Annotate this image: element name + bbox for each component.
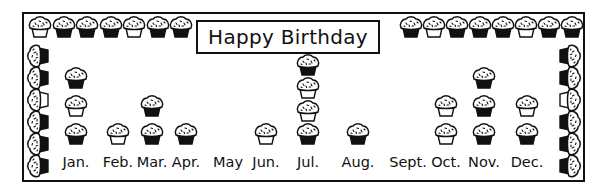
cupcake-icon <box>471 66 497 90</box>
month-label: Nov. <box>468 154 500 170</box>
cupcake-icon <box>471 94 497 118</box>
cupcake-icon <box>295 76 321 100</box>
cupcake-icon <box>295 99 321 123</box>
cupcake-icon <box>471 122 497 146</box>
title-box: Happy Birthday <box>196 20 380 54</box>
cupcake-icon <box>168 15 194 39</box>
month-label: Feb. <box>103 154 133 170</box>
cupcake-icon <box>433 122 459 146</box>
month-label: Aug. <box>342 154 375 170</box>
cupcake-icon <box>74 15 100 39</box>
cupcake-icon <box>295 53 321 77</box>
cupcake-icon <box>433 94 459 118</box>
month-label: Sept. <box>389 154 427 170</box>
cupcake-icon <box>27 15 53 39</box>
cupcake-icon <box>139 122 165 146</box>
chart-title: Happy Birthday <box>208 25 368 49</box>
cupcake-icon <box>514 122 540 146</box>
month-label: Jan. <box>63 154 90 170</box>
month-label: Dec. <box>511 154 544 170</box>
month-label: Oct. <box>431 154 461 170</box>
cupcake-icon <box>173 122 199 146</box>
cupcake-icon <box>121 15 147 39</box>
cupcake-icon <box>295 122 321 146</box>
cupcake-icon <box>105 122 131 146</box>
month-label: Jun. <box>252 154 279 170</box>
cupcake-icon <box>63 122 89 146</box>
month-label: Jul. <box>297 154 319 170</box>
cupcake-icon <box>559 15 585 39</box>
cupcake-icon <box>139 94 165 118</box>
cupcake-icon <box>345 122 371 146</box>
month-label: Mar. <box>137 154 168 170</box>
month-label: Apr. <box>172 154 200 170</box>
cupcake-icon <box>145 15 171 39</box>
month-label: May <box>213 154 243 170</box>
cupcake-icon <box>514 94 540 118</box>
cupcake-icon <box>25 154 51 178</box>
cupcake-icon <box>253 122 279 146</box>
cupcake-icon <box>51 15 77 39</box>
cupcake-icon <box>63 66 89 90</box>
cupcake-icon <box>557 154 583 178</box>
cupcake-icon <box>98 15 124 39</box>
cupcake-icon <box>63 94 89 118</box>
